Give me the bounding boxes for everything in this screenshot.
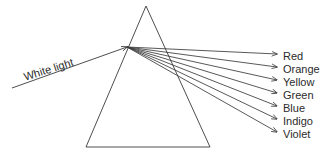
refracted-ray-violet <box>127 47 277 132</box>
prism-triangle <box>86 6 210 147</box>
spectrum-label-yellow: Yellow <box>283 77 314 88</box>
refracted-ray-red <box>127 47 277 54</box>
refracted-ray-green <box>127 47 277 93</box>
spectrum-label-orange: Orange <box>283 64 320 75</box>
refracted-ray-blue <box>127 47 277 106</box>
prism-outline <box>86 6 210 147</box>
refracted-ray-group <box>127 47 277 132</box>
refracted-ray-orange <box>127 47 277 67</box>
spectrum-label-green: Green <box>283 90 314 101</box>
diagram-canvas <box>0 0 326 159</box>
prism-dispersion-diagram: White light RedOrangeYellowGreenBlueIndi… <box>0 0 326 159</box>
spectrum-label-blue: Blue <box>283 103 305 114</box>
spectrum-label-indigo: Indigo <box>283 116 313 127</box>
spectrum-label-violet: Violet <box>283 129 310 140</box>
refracted-ray-indigo <box>127 47 277 119</box>
spectrum-label-red: Red <box>283 51 303 62</box>
refracted-ray-yellow <box>127 47 277 80</box>
